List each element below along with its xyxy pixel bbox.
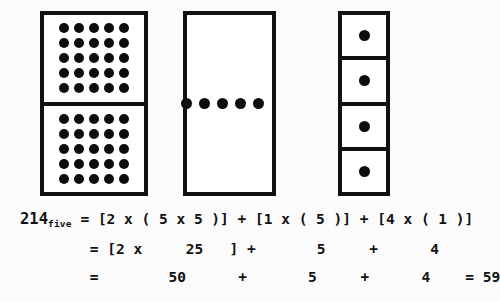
dot [119, 23, 129, 33]
dot [74, 174, 84, 184]
dot [119, 129, 129, 139]
dot [89, 144, 99, 154]
equation-line-1-expression: = [2 x ( 5 x 5 )] + [1 x ( 5 )] + [4 x (… [72, 211, 474, 227]
dot [119, 83, 129, 93]
dot [359, 75, 370, 86]
dot [59, 23, 69, 33]
dot [119, 174, 129, 184]
dot [74, 129, 84, 139]
dot [104, 114, 114, 124]
dot [104, 68, 114, 78]
dot [104, 83, 114, 93]
dot [89, 38, 99, 48]
hundreds-panel-2 [44, 102, 144, 193]
dot [104, 129, 114, 139]
dot [359, 121, 370, 132]
ones-unit-cell [342, 15, 386, 56]
dot [74, 38, 84, 48]
dot [359, 166, 370, 177]
dot [74, 23, 84, 33]
ones-unit-cell [342, 102, 386, 147]
dot [89, 114, 99, 124]
dot [104, 53, 114, 63]
hundreds-block [40, 11, 148, 196]
dot [119, 159, 129, 169]
dot [89, 23, 99, 33]
dot [89, 68, 99, 78]
dot-grid [57, 111, 132, 186]
dot [89, 174, 99, 184]
hundreds-panel-1 [44, 15, 144, 102]
ones-block [338, 11, 390, 196]
dot [119, 38, 129, 48]
numeral-214: 214 [20, 210, 48, 228]
dot [104, 23, 114, 33]
dot [59, 38, 69, 48]
base-subscript: five [48, 218, 72, 229]
dot [104, 38, 114, 48]
dot [74, 114, 84, 124]
dot [59, 68, 69, 78]
dot-grid [57, 21, 132, 96]
dot [59, 174, 69, 184]
dot [119, 68, 129, 78]
equation-block: 214five = [2 x ( 5 x 5 )] + [1 x ( 5 )] … [0, 205, 454, 302]
dot [89, 159, 99, 169]
dot [104, 174, 114, 184]
base-five-diagram [0, 0, 454, 205]
dot [74, 159, 84, 169]
dot [119, 114, 129, 124]
dot [104, 159, 114, 169]
dot [74, 144, 84, 154]
dot [59, 129, 69, 139]
equation-line-2: = [2 x 25 ] + 5 + 4 [20, 242, 439, 257]
equation-line-1: 214five = [2 x ( 5 x 5 )] + [1 x ( 5 )] … [20, 212, 473, 228]
dot [59, 159, 69, 169]
dot [89, 53, 99, 63]
dot-row [181, 98, 264, 109]
dot [359, 30, 370, 41]
dot [89, 129, 99, 139]
dot [104, 144, 114, 154]
dot [217, 98, 228, 109]
dot [119, 144, 129, 154]
dot [59, 114, 69, 124]
equation-line-3: = 50 + 5 + 4 = 59 [20, 270, 500, 285]
ones-unit-cell [342, 147, 386, 192]
dot [181, 98, 192, 109]
dot [253, 98, 264, 109]
dot [89, 83, 99, 93]
dot [74, 68, 84, 78]
fives-block [183, 11, 276, 196]
dot [74, 83, 84, 93]
dot [59, 144, 69, 154]
dot [235, 98, 246, 109]
dot [59, 53, 69, 63]
ones-unit-cell [342, 56, 386, 101]
dot [199, 98, 210, 109]
dot [59, 83, 69, 93]
dot [74, 53, 84, 63]
dot [119, 53, 129, 63]
